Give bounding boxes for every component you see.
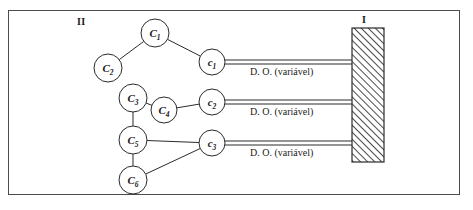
node-c2: c2 xyxy=(199,89,225,115)
node-C6: C6 xyxy=(119,166,147,194)
node-C4: C4 xyxy=(151,97,177,123)
edge-C4-c2 xyxy=(177,104,199,108)
edge-C3-C4 xyxy=(146,103,152,105)
edge-C2-C1 xyxy=(119,41,144,59)
connector-3 xyxy=(225,141,352,145)
node-C3: C3 xyxy=(119,84,147,112)
node-C1: C1 xyxy=(141,19,169,47)
edge-C5-c3 xyxy=(147,141,199,143)
group-ii-label: II xyxy=(77,16,86,27)
connector-label-3: D. O. (variável) xyxy=(250,147,313,158)
group-i-hatched-bar xyxy=(352,28,384,162)
node-C2: C2 xyxy=(94,54,122,82)
edge-C1-c1 xyxy=(167,39,200,56)
connector-2 xyxy=(225,100,352,104)
connector-label-1: D. O. (variável) xyxy=(250,66,313,77)
edge-C6-c3 xyxy=(146,149,201,175)
node-c1: c1 xyxy=(199,49,225,75)
group-i-label: I xyxy=(362,14,366,25)
node-C5: C5 xyxy=(119,126,147,154)
figure-screenshot: C1C2C3C4C5C6c1c2c3 II I D. O. (variável)… xyxy=(0,0,473,210)
node-c3: c3 xyxy=(199,130,225,156)
network-diagram: C1C2C3C4C5C6c1c2c3 xyxy=(0,0,473,210)
connector-1 xyxy=(225,60,352,64)
connector-label-2: D. O. (variável) xyxy=(250,106,313,117)
